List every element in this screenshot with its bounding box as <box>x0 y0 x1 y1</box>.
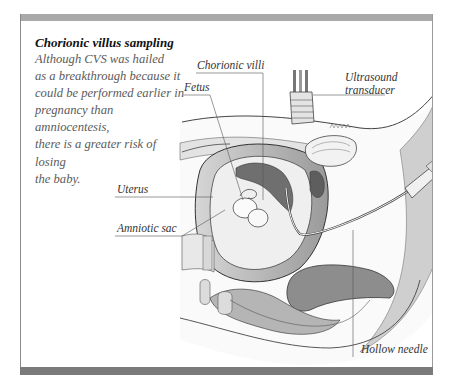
caption-line: the baby. <box>35 171 185 188</box>
caption-line: there is a greater risk of losing <box>35 136 185 170</box>
label-amniotic-sac: Amniotic sac <box>117 222 177 235</box>
caption-line: pregnancy than amniocentesis, <box>35 102 185 136</box>
caption-line: Although CVS was hailed <box>35 51 185 68</box>
label-uterus: Uterus <box>117 183 148 196</box>
caption-title: Chorionic villus sampling <box>35 34 185 51</box>
label-fetus: Fetus <box>184 81 210 94</box>
label-ultrasound-transducer-line2: transducer <box>345 84 395 97</box>
caption-line: could be performed earlier in <box>35 85 185 102</box>
caption-line: as a breakthrough because it <box>35 68 185 85</box>
ultrasound-transducer-drawing <box>290 70 314 124</box>
label-ultrasound-transducer-line1: Ultrasound <box>345 71 397 84</box>
label-chorionic-villi: Chorionic villi <box>197 59 264 72</box>
caption-block: Chorionic villus sampling Although CVS w… <box>35 34 185 188</box>
label-hollow-needle: Hollow needle <box>361 343 428 356</box>
